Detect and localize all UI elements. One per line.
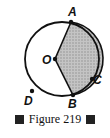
circle-diagram: A O C D B [0,0,110,110]
label-c: C [93,73,102,87]
label-o: O [42,53,52,67]
label-d: D [24,94,33,108]
square-bullet-icon [15,115,24,124]
label-a: A [67,5,77,19]
square-bullet-icon [86,115,95,124]
point-a-dot [69,20,73,24]
caption-text: Figure 219 [29,112,81,126]
point-o-dot [53,57,57,61]
point-d-dot [30,89,34,93]
label-b: B [68,97,77,110]
figure-caption: Figure 219 [0,112,110,127]
